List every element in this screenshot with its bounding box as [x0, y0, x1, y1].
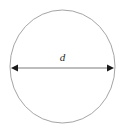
circle-diameter-figure: d — [0, 0, 126, 131]
diagram-canvas: d — [0, 0, 126, 131]
diameter-label: d — [60, 51, 66, 63]
